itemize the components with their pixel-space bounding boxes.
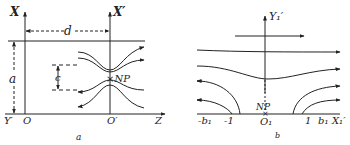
label-neutral-point: ×NP <box>106 73 130 84</box>
label-x-prime: X′ <box>112 5 126 19</box>
label-c: c <box>55 72 61 83</box>
label-x1-prime: X₁′ <box>331 115 346 126</box>
panel-a <box>5 12 165 114</box>
field-line-b-2 <box>197 50 340 52</box>
field-line-b-3 <box>197 66 340 79</box>
tick-pos-b1: b₁ <box>318 115 328 126</box>
diagram-canvas: X X′ d a c ×NP Y′ O O′ Z a Y₁′ NP × -b₁ … <box>0 0 350 145</box>
caption-a: a <box>76 132 81 142</box>
label-d: d <box>64 24 72 38</box>
panel-a-labels: X X′ d a c ×NP Y′ O O′ Z a <box>4 5 163 142</box>
label-y1-prime: Y₁′ <box>269 10 284 23</box>
label-x: X <box>9 5 20 19</box>
label-y-prime: Y′ <box>4 115 14 126</box>
caption-b: b <box>275 131 280 140</box>
label-z: Z <box>154 115 163 126</box>
field-line-b-5 <box>197 100 232 114</box>
tick-neg-b1: -b₁ <box>198 115 212 126</box>
label-origin-o1: O₁ <box>260 116 272 127</box>
tick-neg-1: -1 <box>224 115 234 126</box>
label-a: a <box>9 72 16 86</box>
field-line-upper-1 <box>78 47 144 70</box>
field-line-b-4 <box>197 81 240 114</box>
panel-b <box>197 16 340 114</box>
label-origin: O <box>23 115 31 126</box>
panel-b-labels: Y₁′ NP × -b₁ -1 O₁ 1 b₁ X₁′ b <box>198 10 346 140</box>
tick-pos-1: 1 <box>305 115 311 126</box>
label-origin-prime: O′ <box>107 115 118 126</box>
field-line-b-7 <box>302 100 340 114</box>
